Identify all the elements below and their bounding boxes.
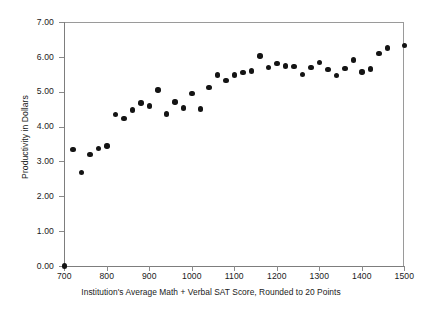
data-point — [223, 78, 228, 83]
y-tick-mark — [59, 196, 64, 197]
data-point — [215, 72, 220, 77]
data-point — [368, 66, 373, 71]
data-point — [240, 70, 245, 75]
y-tick-mark — [59, 92, 64, 93]
y-tick-mark — [59, 127, 64, 128]
data-point — [274, 61, 279, 66]
x-tick-label: 1500 — [384, 272, 422, 281]
y-tick-mark — [59, 22, 64, 23]
data-point — [325, 67, 330, 72]
x-tick-label: 700 — [44, 272, 84, 281]
data-point — [206, 85, 211, 90]
data-point — [172, 99, 177, 104]
scatter-chart-figure: 0.001.002.003.004.005.006.007.00 7008009… — [0, 0, 422, 310]
data-point — [257, 53, 262, 58]
x-tick-label: 1100 — [214, 272, 254, 281]
data-point — [385, 45, 390, 50]
data-point — [359, 69, 364, 74]
x-tick-label: 800 — [87, 272, 127, 281]
data-point — [376, 51, 381, 56]
data-point — [198, 106, 203, 111]
data-point — [232, 72, 237, 77]
data-point — [87, 152, 92, 157]
y-tick-label: 7.00 — [18, 18, 54, 27]
data-point — [70, 147, 75, 152]
data-point — [308, 65, 313, 70]
y-axis-title: Productivity in Dollars — [20, 57, 30, 217]
data-point — [342, 66, 347, 71]
data-point — [334, 73, 339, 78]
x-tick-label: 900 — [129, 272, 169, 281]
y-tick-label: 1.00 — [18, 227, 54, 236]
data-point — [138, 100, 143, 105]
data-point — [104, 143, 109, 148]
data-point — [164, 111, 169, 116]
data-point — [130, 107, 135, 112]
data-point — [189, 91, 194, 96]
data-point — [155, 87, 160, 92]
x-tick-label: 1200 — [257, 272, 297, 281]
y-axis-line — [64, 22, 65, 266]
y-tick-label: 0.00 — [18, 262, 54, 271]
data-point — [181, 105, 186, 110]
y-tick-mark — [59, 57, 64, 58]
y-tick-mark — [59, 231, 64, 232]
data-point — [147, 103, 152, 108]
x-axis-title: Institution's Average Math + Verbal SAT … — [0, 287, 422, 297]
data-point — [62, 263, 67, 268]
data-point — [249, 68, 254, 73]
data-point — [402, 43, 407, 48]
x-tick-label: 1400 — [342, 272, 382, 281]
data-point — [121, 116, 126, 121]
data-point — [283, 63, 288, 68]
data-point — [351, 57, 356, 62]
y-tick-mark — [59, 161, 64, 162]
x-tick-label: 1000 — [172, 272, 212, 281]
data-point — [291, 64, 296, 69]
x-tick-label: 1300 — [299, 272, 339, 281]
